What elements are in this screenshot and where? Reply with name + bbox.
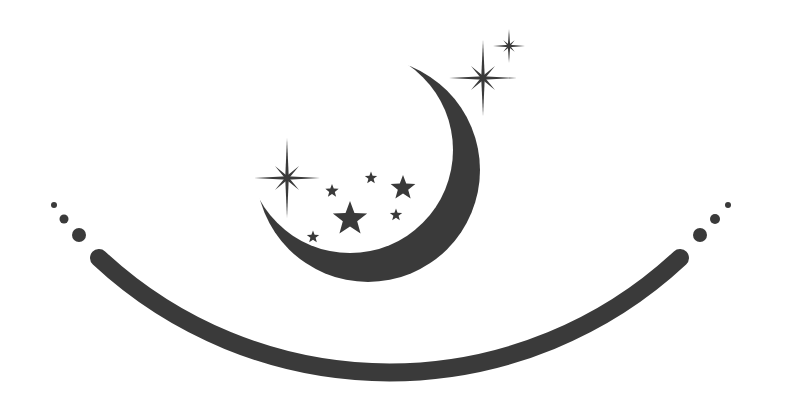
moon-stars-logo bbox=[0, 0, 789, 420]
dot-icon bbox=[60, 215, 69, 224]
dot-icon bbox=[710, 214, 720, 224]
dot-icon bbox=[72, 228, 86, 242]
dot-icon bbox=[693, 228, 707, 242]
sparkle-small-top-icon bbox=[493, 29, 525, 63]
dots-right bbox=[693, 202, 731, 242]
dot-icon bbox=[51, 202, 57, 208]
sparkle-large-top-icon bbox=[449, 40, 517, 116]
dot-icon bbox=[725, 202, 731, 208]
dots-left bbox=[51, 202, 86, 242]
crescent-moon-icon bbox=[256, 58, 480, 282]
